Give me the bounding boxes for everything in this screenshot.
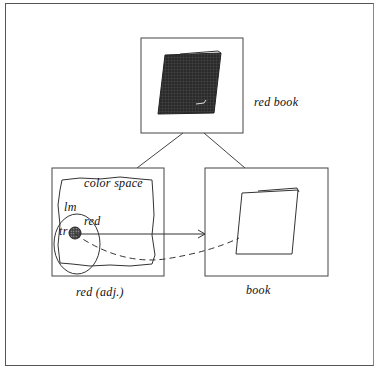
label-red: red <box>84 214 100 229</box>
connector-left <box>137 133 183 168</box>
red-book-image <box>158 51 221 114</box>
label-color-space: color space <box>84 176 143 191</box>
label-lm: lm <box>64 200 77 215</box>
top-panel <box>141 38 243 133</box>
caption-book: book <box>246 283 271 298</box>
label-tr: tr <box>59 224 68 239</box>
diagram-canvas <box>0 0 379 371</box>
right-panel <box>205 168 328 276</box>
connector-right <box>204 133 245 168</box>
label-red-book: red book <box>254 95 298 110</box>
caption-red-adj: red (adj.) <box>76 285 124 300</box>
